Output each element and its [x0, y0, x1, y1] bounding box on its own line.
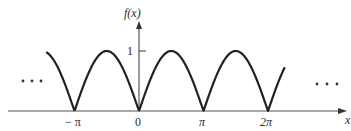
y-axis-label: f(x): [124, 6, 141, 20]
x-tick-label-neg-pi: − π: [65, 115, 81, 129]
ellipsis-right-icon: [316, 83, 339, 86]
function-curve: [46, 51, 285, 111]
y-axis-arrow-icon: [136, 21, 142, 29]
chart-canvas: f(x) 1 x − π 0 π 2π: [0, 0, 351, 131]
x-tick-label-0: 0: [135, 115, 141, 129]
x-axis-label: x: [344, 113, 351, 127]
y-tick-label-1: 1: [127, 44, 133, 58]
x-tick-label-2pi: 2π: [260, 115, 273, 129]
ellipsis-left-icon: [22, 80, 43, 83]
x-tick-label-pi: π: [199, 115, 206, 129]
